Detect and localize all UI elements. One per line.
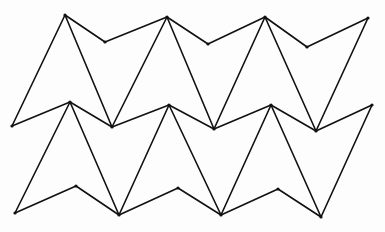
vertex-c5: [219, 213, 222, 216]
vertex-b5: [269, 103, 272, 106]
edge-b1-c1: [15, 102, 70, 213]
edge-a4-b2: [112, 17, 167, 127]
vertex-b6: [314, 129, 317, 132]
vertex-a7: [305, 45, 308, 48]
edge-b7-c7: [321, 105, 372, 217]
edge-a6-b4: [214, 17, 265, 129]
edge-b6-b7: [316, 105, 372, 131]
edge-c5-c6: [221, 189, 278, 215]
edge-a6-b6: [265, 17, 316, 131]
vertex-c3: [117, 213, 120, 216]
vertex-b7: [370, 103, 373, 106]
edge-a8-b6: [316, 18, 368, 131]
vertex-b3: [167, 103, 170, 106]
edge-b5-c5: [221, 105, 271, 215]
vertex-a5: [206, 42, 209, 45]
edge-c3-c4: [119, 188, 178, 215]
edge-b5-b6: [271, 105, 316, 131]
edge-a4-b4: [167, 17, 214, 129]
vertex-group: [10, 13, 373, 218]
edge-group: [12, 15, 372, 217]
vertex-c1: [13, 211, 16, 214]
edge-b1-b2: [70, 102, 112, 127]
vertex-b1: [68, 100, 71, 103]
edge-a5-a6: [208, 17, 265, 44]
vertex-c6: [276, 187, 279, 190]
vertex-a2: [63, 13, 66, 16]
edge-c1-c2: [15, 186, 76, 213]
zigzag-tessellation-figure: [0, 0, 385, 232]
vertex-a3: [103, 40, 106, 43]
vertex-b4: [212, 127, 215, 130]
edge-a7-a8: [307, 18, 368, 47]
vertex-a6: [263, 15, 266, 18]
vertex-a4: [165, 15, 168, 18]
vertex-a8: [366, 16, 369, 19]
vertex-b2: [110, 125, 113, 128]
tessellation-diagram: [0, 0, 385, 232]
vertex-c2: [74, 184, 77, 187]
vertex-a1: [10, 124, 13, 127]
vertex-c4: [176, 186, 179, 189]
edge-a1-b1: [12, 102, 70, 126]
edge-a3-a4: [105, 17, 167, 42]
edge-b3-b4: [169, 105, 214, 129]
vertex-c7: [319, 215, 322, 218]
edge-a1-a2: [12, 15, 65, 126]
